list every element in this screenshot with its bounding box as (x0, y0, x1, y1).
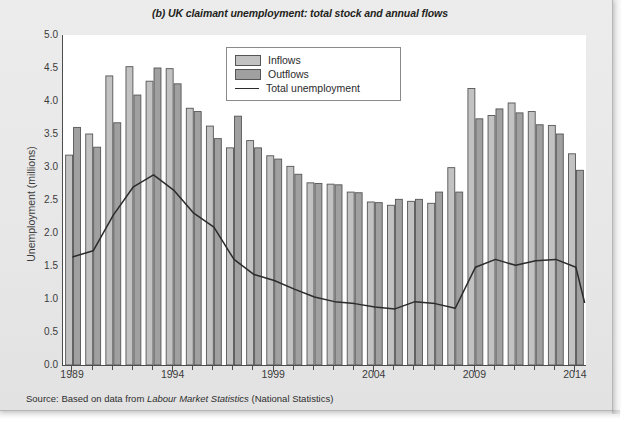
x-tick-mark-1990 (92, 366, 93, 370)
x-tick-label-2009: 2009 (463, 368, 486, 380)
x-tick-mark-2013 (554, 366, 555, 370)
x-tick-mark-2006 (413, 366, 414, 370)
panel-shadow-right (612, 0, 622, 414)
x-tick-mark-2007 (434, 366, 435, 370)
y-tick-label-2.0: 2.0 (24, 228, 58, 238)
y-tick-label-4.0: 4.0 (24, 96, 58, 106)
y-tick-label-0.5: 0.5 (24, 327, 58, 337)
legend-swatch-inflows-icon (235, 55, 261, 66)
x-tick-mark-1997 (232, 366, 233, 370)
legend-item-outflows: Outflows (235, 67, 393, 81)
x-tick-mark-2000 (293, 366, 294, 370)
legend-label-inflows: Inflows (268, 54, 301, 66)
x-tick-mark-1996 (212, 366, 213, 370)
legend-item-inflows: Inflows (235, 53, 393, 67)
x-tick-mark-2010 (494, 366, 495, 370)
x-tick-label-1999: 1999 (262, 368, 285, 380)
x-tick-label-1994: 1994 (161, 368, 184, 380)
screenshot-page: (b) UK claimant unemployment: total stoc… (0, 0, 627, 427)
total-unemployment-line (73, 175, 584, 309)
x-tick-mark-1993 (152, 366, 153, 370)
x-tick-label-1989: 1989 (60, 368, 83, 380)
x-tick-label-2014: 2014 (563, 368, 586, 380)
y-tick-label-5.0: 5.0 (24, 30, 58, 40)
x-tick-mark-2002 (333, 366, 334, 370)
x-tick-mark-2001 (313, 366, 314, 370)
x-tick-mark-1995 (192, 366, 193, 370)
x-tick-label-2004: 2004 (362, 368, 385, 380)
x-tick-mark-1992 (132, 366, 133, 370)
x-tick-mark-2003 (353, 366, 354, 370)
y-tick-label-2.5: 2.5 (24, 195, 58, 205)
x-tick-mark-2012 (534, 366, 535, 370)
legend-swatch-outflows-icon (235, 69, 261, 80)
y-tick-label-1.0: 1.0 (24, 294, 58, 304)
y-tick-label-0.0: 0.0 (24, 360, 58, 370)
source-prefix: Source: Based on data from (26, 393, 147, 404)
panel-shadow-bottom (0, 410, 620, 419)
y-tick-label-3.5: 3.5 (24, 129, 58, 139)
source-suffix: (National Statistics) (249, 393, 333, 404)
x-tick-mark-2005 (393, 366, 394, 370)
y-tick-label-1.5: 1.5 (24, 261, 58, 271)
y-tick-label-3.0: 3.0 (24, 162, 58, 172)
legend-label-outflows: Outflows (268, 68, 309, 80)
y-axis-ticks: 0.00.51.01.52.02.53.03.54.04.55.0 (16, 0, 58, 427)
x-tick-mark-1991 (112, 366, 113, 370)
source-italic-title: Labour Market Statistics (147, 393, 249, 404)
source-note: Source: Based on data from Labour Market… (26, 393, 333, 404)
x-tick-mark-1998 (252, 366, 253, 370)
legend-line-icon (235, 84, 259, 93)
x-tick-mark-2008 (454, 366, 455, 370)
chart-title: (b) UK claimant unemployment: total stoc… (0, 7, 600, 19)
legend-item-total-unemployment: Total unemployment (235, 81, 393, 95)
chart-legend: Inflows Outflows Total unemployment (226, 47, 401, 101)
legend-label-total-unemployment: Total unemployment (266, 82, 360, 94)
x-tick-mark-2011 (514, 366, 515, 370)
y-tick-label-4.5: 4.5 (24, 63, 58, 73)
